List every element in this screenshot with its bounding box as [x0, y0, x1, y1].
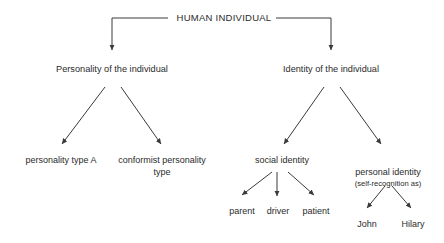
node-conformist-personality-type: conformist personality type [110, 155, 214, 178]
diagram-canvas: HUMAN INDIVIDUAL Personality of the indi… [0, 0, 444, 243]
node-personality-type-a: personality type A [8, 155, 114, 167]
node-personal-identity-subtitle: (self-recognition as) [338, 179, 438, 189]
edge-root-to-personality [112, 18, 168, 50]
edge-personality-to-conformist [121, 87, 161, 144]
node-john: John [344, 219, 390, 231]
edge-root-to-identity [276, 18, 331, 50]
node-patient: patient [291, 206, 341, 218]
node-personality-of-the-individual: Personality of the individual [42, 64, 182, 76]
node-personal-identity: personal identity (self-recognition as) [338, 155, 438, 200]
node-identity-of-the-individual: Identity of the individual [267, 64, 395, 76]
edge-identity-to-personal [340, 87, 381, 144]
node-human-individual: HUMAN INDIVIDUAL [172, 12, 276, 24]
node-personal-identity-label: personal identity [355, 167, 421, 177]
edge-social-to-parent [242, 172, 272, 195]
edge-social-to-patient [288, 172, 314, 195]
node-social-identity: social identity [237, 155, 327, 167]
edge-identity-to-social [284, 87, 324, 144]
node-hilary: Hilary [390, 219, 436, 231]
edge-personality-to-type-a [62, 87, 105, 144]
